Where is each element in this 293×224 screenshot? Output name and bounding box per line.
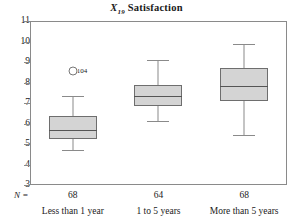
- group-count: 68: [38, 190, 108, 200]
- n-prefix-label: N =: [14, 190, 28, 200]
- title-text: Satisfaction: [128, 2, 183, 13]
- box-plot-group[interactable]: [116, 21, 202, 185]
- box-iqr-rect[interactable]: [220, 68, 268, 101]
- whisker-cap-lower: [62, 150, 84, 151]
- box-plot-group[interactable]: [201, 21, 287, 185]
- y-tick-mark: [24, 185, 30, 186]
- title-subscript: 19: [118, 8, 125, 16]
- category-label: Less than 1 year: [25, 206, 121, 216]
- whisker-cap-lower: [233, 135, 255, 136]
- title-variable: X: [110, 2, 117, 13]
- category-label: 1 to 5 years: [111, 206, 207, 216]
- box-plot-group[interactable]: 104: [30, 21, 116, 185]
- whisker-cap-upper: [147, 60, 169, 61]
- whisker-cap-lower: [147, 121, 169, 122]
- median-line: [134, 96, 182, 98]
- whisker-cap-upper: [233, 44, 255, 45]
- group-count: 64: [124, 190, 194, 200]
- median-line: [49, 130, 97, 132]
- category-label: More than 5 years: [196, 206, 292, 216]
- whisker-cap-upper: [62, 96, 84, 97]
- outlier-label: 104: [77, 68, 88, 75]
- group-count: 68: [209, 190, 279, 200]
- median-line: [220, 86, 268, 88]
- chart-title: X19 Satisfaction: [0, 2, 293, 16]
- box-iqr-rect[interactable]: [49, 116, 97, 139]
- boxplot-chart: X19 Satisfaction 11109876543 104 N = 68L…: [0, 0, 293, 224]
